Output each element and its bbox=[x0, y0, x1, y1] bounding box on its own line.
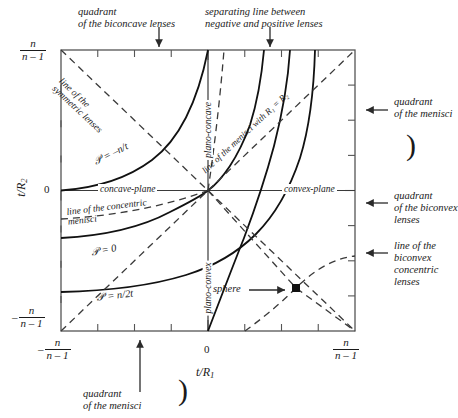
brace-right-menisci: ) bbox=[406, 128, 416, 162]
label-sphere: sphere bbox=[213, 283, 241, 294]
annotation-right-menisci: quadrant of the menisci bbox=[394, 96, 452, 120]
brace-bottom-menisci: ) bbox=[178, 373, 188, 407]
y-tick-label-top: n n – 1 bbox=[20, 38, 46, 62]
y-axis-title: t/R2 bbox=[0, 180, 46, 195]
annotation-bottom-menisci: quadrant of the menisci bbox=[83, 388, 141, 412]
annotation-right-concentric: line of the biconvex concentric lenses bbox=[394, 240, 438, 288]
sphere-point-marker bbox=[292, 284, 300, 292]
x-tick-label-left: – n n – 1 bbox=[38, 337, 71, 361]
x-tick-label-right: n n – 1 bbox=[333, 337, 359, 361]
annotation-top-left: quadrant of the biconcave lenses bbox=[78, 6, 175, 30]
x-tick-label-zero: 0 bbox=[204, 343, 210, 356]
label-concave-plane: concave-plane bbox=[98, 184, 157, 194]
annotation-top-right: separating line between negative and pos… bbox=[205, 6, 323, 30]
label-convex-plane: convex-plane bbox=[282, 184, 337, 194]
annotation-right-biconvex: quadrant of the biconvex lenses bbox=[394, 190, 458, 226]
x-axis-title: t/R1 bbox=[196, 366, 214, 381]
y-tick-label-bottom: – n n – 1 bbox=[12, 305, 45, 329]
label-plano-concave: plano-concave bbox=[163, 125, 253, 135]
